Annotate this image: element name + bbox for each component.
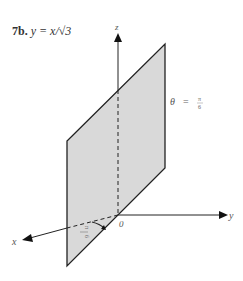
plane-diagram: z y x 0 θ = π 6 π 6 (0, 0, 243, 281)
origin-label: 0 (119, 219, 124, 229)
theta-symbol: θ (170, 96, 175, 107)
plane-parallelogram (67, 44, 165, 266)
theta-numerator: π (198, 96, 201, 102)
x-axis (30, 228, 67, 238)
x-axis-arrow-icon (22, 234, 33, 242)
angle-numerator: π (84, 226, 90, 229)
angle-denominator: 6 (84, 235, 90, 238)
y-axis-arrow-icon (219, 211, 228, 219)
z-axis-arrow-icon (114, 33, 122, 42)
plane-angle-label: θ = π 6 (170, 96, 203, 110)
theta-denominator: 6 (198, 104, 201, 110)
equals-sign: = (183, 96, 189, 107)
z-axis-label: z (114, 22, 119, 32)
y-axis-label: y (228, 210, 234, 221)
x-axis-label: x (11, 236, 17, 247)
